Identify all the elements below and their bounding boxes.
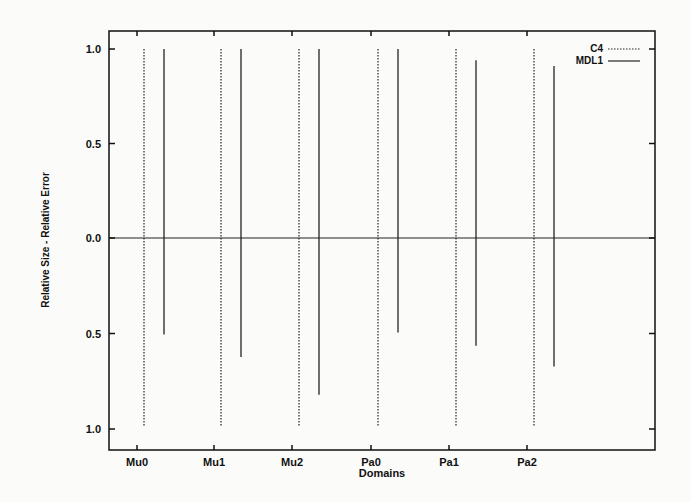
y-tick-label: 0.5 <box>86 328 101 340</box>
legend-label-c4: C4 <box>590 43 603 54</box>
y-tick-label: 1.0 <box>86 43 101 55</box>
chart-figure: 1.00.50.00.51.0Mu0Mu1Mu2Pa0Pa1Pa2C4MDL1D… <box>0 0 691 502</box>
legend-label-mdl1: MDL1 <box>576 55 604 66</box>
x-tick-label: Mu0 <box>126 456 148 468</box>
y-tick-label: 1.0 <box>86 423 101 435</box>
x-tick-label: Mu1 <box>203 456 225 468</box>
x-tick-label: Mu2 <box>281 456 303 468</box>
y-tick-label: 0.5 <box>86 138 101 150</box>
y-axis-label: Relative Size - Relative Error <box>40 172 51 308</box>
x-axis-label: Domains <box>359 467 405 479</box>
y-tick-label: 0.0 <box>86 232 101 244</box>
chart-svg: 1.00.50.00.51.0Mu0Mu1Mu2Pa0Pa1Pa2C4MDL1D… <box>0 0 691 502</box>
x-tick-label: Pa1 <box>439 456 459 468</box>
x-tick-label: Pa2 <box>517 456 537 468</box>
plot-frame <box>109 31 655 450</box>
